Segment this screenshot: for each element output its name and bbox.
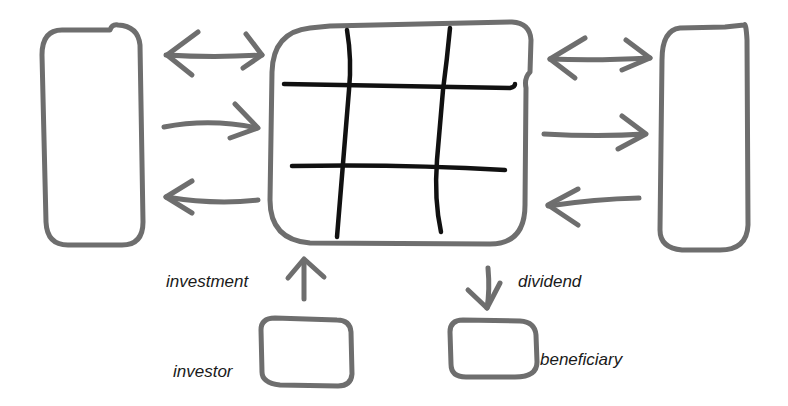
investment-label: investment bbox=[166, 272, 248, 292]
arrow-left-to-hub bbox=[164, 104, 258, 138]
bidirectional-arrow-left bbox=[166, 32, 262, 75]
arrow-investment-up bbox=[288, 259, 324, 299]
investor-box bbox=[261, 318, 352, 386]
flow-diagram bbox=[0, 0, 788, 406]
beneficiary-label: beneficiary bbox=[540, 350, 622, 370]
grid-vertical-left bbox=[337, 30, 350, 237]
beneficiary-box bbox=[450, 320, 537, 377]
dividend-label: dividend bbox=[518, 272, 581, 292]
bidirectional-arrow-right bbox=[550, 38, 650, 78]
grid-horizontal-top bbox=[284, 84, 515, 88]
arrow-hub-to-right bbox=[544, 116, 646, 149]
arrow-dividend-down bbox=[468, 268, 500, 308]
center-hub-box bbox=[270, 22, 531, 244]
arrow-right-to-hub bbox=[548, 189, 639, 225]
grid-horizontal-bottom bbox=[292, 166, 505, 171]
hub-grid bbox=[284, 28, 515, 237]
grid-vertical-right bbox=[436, 28, 450, 232]
arrow-hub-to-left bbox=[166, 181, 258, 213]
left-party-box bbox=[42, 25, 143, 245]
right-party-box bbox=[660, 25, 748, 250]
investor-label: investor bbox=[173, 362, 233, 382]
